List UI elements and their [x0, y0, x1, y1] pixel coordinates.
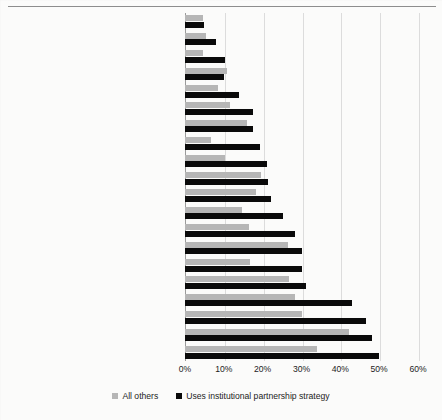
bar-all-others — [185, 137, 211, 143]
bar-row — [185, 135, 418, 152]
bar-uses-institutional-partnership-strategy — [185, 179, 268, 185]
bar-row — [185, 344, 418, 361]
bar-all-others — [185, 224, 249, 230]
bar-uses-institutional-partnership-strategy — [185, 353, 379, 359]
bar-uses-institutional-partnership-strategy — [185, 266, 302, 272]
bar-uses-institutional-partnership-strategy — [185, 248, 302, 254]
bar-uses-institutional-partnership-strategy — [185, 57, 225, 63]
bar-all-others — [185, 242, 288, 248]
bar-row — [185, 222, 418, 239]
bar-row — [185, 239, 418, 256]
legend-swatch-black-icon — [176, 393, 182, 399]
bar-all-others — [185, 346, 317, 352]
chart-legend: All others Uses institutional partnershi… — [0, 391, 442, 401]
bar-all-others — [185, 85, 218, 91]
grouped-bar-chart: defense, national securityrecreation, sp… — [0, 0, 442, 420]
bar-all-others — [185, 172, 261, 178]
bar-uses-institutional-partnership-strategy — [185, 318, 366, 324]
bar-row — [185, 274, 418, 291]
legend-item-all-others: All others — [112, 391, 158, 401]
bar-uses-institutional-partnership-strategy — [185, 161, 267, 167]
bar-all-others — [185, 102, 230, 108]
x-tick-label: 40% — [332, 364, 349, 374]
bar-uses-institutional-partnership-strategy — [185, 335, 372, 341]
bar-all-others — [185, 276, 289, 282]
bar-row — [185, 187, 418, 204]
bar-uses-institutional-partnership-strategy — [185, 39, 216, 45]
bar-row — [185, 13, 418, 30]
x-tick-label: 20% — [254, 364, 271, 374]
x-tick-label: 30% — [293, 364, 310, 374]
bar-all-others — [185, 207, 242, 213]
bar-row — [185, 309, 418, 326]
bar-uses-institutional-partnership-strategy — [185, 92, 239, 98]
bar-all-others — [185, 33, 206, 39]
bar-row — [185, 170, 418, 187]
bar-uses-institutional-partnership-strategy — [185, 144, 260, 150]
x-tick-label: 10% — [215, 364, 232, 374]
bar-all-others — [185, 311, 302, 317]
bar-uses-institutional-partnership-strategy — [185, 126, 253, 132]
bar-all-others — [185, 68, 227, 74]
bar-uses-institutional-partnership-strategy — [185, 22, 204, 28]
bar-all-others — [185, 189, 256, 195]
bar-uses-institutional-partnership-strategy — [185, 109, 253, 115]
legend-item-uses-institutional-partnership-strategy: Uses institutional partnership strategy — [176, 391, 329, 401]
bar-row — [185, 117, 418, 134]
bar-row — [185, 30, 418, 47]
bar-row — [185, 100, 418, 117]
x-tick-label: 50% — [371, 364, 388, 374]
bar-all-others — [185, 155, 225, 161]
bar-all-others — [185, 259, 250, 265]
chart-page: defense, national securityrecreation, sp… — [0, 0, 442, 420]
bar-row — [185, 65, 418, 82]
bar-uses-institutional-partnership-strategy — [185, 74, 224, 80]
bar-uses-institutional-partnership-strategy — [185, 196, 271, 202]
bar-row — [185, 152, 418, 169]
bar-row — [185, 257, 418, 274]
bar-all-others — [185, 15, 203, 21]
bar-uses-institutional-partnership-strategy — [185, 283, 306, 289]
bar-uses-institutional-partnership-strategy — [185, 300, 352, 306]
bar-row — [185, 204, 418, 221]
bar-row — [185, 326, 418, 343]
bar-all-others — [185, 329, 349, 335]
bar-row — [185, 83, 418, 100]
bar-uses-institutional-partnership-strategy — [185, 213, 283, 219]
x-tick-label: 0% — [179, 364, 191, 374]
x-tick-label: 60% — [409, 364, 426, 374]
bar-all-others — [185, 50, 203, 56]
legend-label-all-others: All others — [122, 391, 158, 401]
bar-row — [185, 291, 418, 308]
gridline-60 — [419, 13, 420, 361]
legend-label-partnership: Uses institutional partnership strategy — [186, 391, 329, 401]
bar-all-others — [185, 120, 247, 126]
bar-row — [185, 48, 418, 65]
bar-all-others — [185, 294, 295, 300]
legend-swatch-gray-icon — [112, 393, 118, 399]
bar-uses-institutional-partnership-strategy — [185, 231, 295, 237]
